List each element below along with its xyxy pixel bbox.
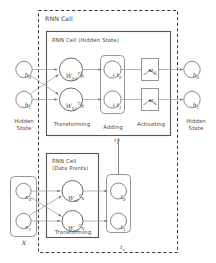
label-hidden-transform-0: Wh0Th	[57, 65, 85, 89]
caption-tx-group: tx	[108, 238, 130, 260]
caption-hidden-state-left-line2: State	[5, 125, 43, 131]
label-data-transform-0: Wx0Tx	[59, 187, 86, 211]
caption-x-group: X	[13, 240, 35, 246]
data-points-box-title-line2: (Data Points)	[52, 165, 88, 171]
label-hidden-input-0: h0	[14, 66, 34, 88]
edge-h1-to-w0	[31, 75, 59, 94]
edge-h0-to-w1	[31, 75, 59, 94]
hidden-state-box-title: RNN Cell (Hidden State)	[52, 37, 119, 43]
label-data-input-0: x0	[14, 188, 34, 210]
label-data-input-1: x1	[14, 218, 34, 240]
caption-adding-line1: Adding	[99, 124, 127, 130]
label-adding-1: +t1	[102, 96, 123, 118]
caption-activating: Activating	[130, 121, 172, 127]
label-activating-0: z0	[141, 61, 159, 83]
label-hidden-output-0: h0	[182, 66, 202, 88]
outer-box-title: RNN Cell	[45, 16, 73, 22]
caption-hidden-state-right-line1: Hidden	[177, 118, 215, 124]
label-activating-1: z1	[141, 91, 159, 113]
caption-hidden-state-right-line2: State	[177, 125, 215, 131]
edge-x1-to-wx0	[29, 196, 61, 215]
diagram-canvas: RNN Cell RNN Cell (Hidden State) RNN Cel…	[0, 0, 216, 263]
label-hidden-output-1: h1	[182, 96, 202, 118]
caption-adding-line2: tx	[99, 131, 127, 153]
label-adding-0: +t0	[102, 66, 123, 88]
caption-hidden-state-left-line1: Hidden	[5, 118, 43, 124]
label-hidden-transform-1: Wh1Th	[57, 95, 85, 119]
caption-transforming-bottom: Transforming	[49, 229, 97, 235]
edge-x0-to-wx1	[29, 197, 61, 217]
label-data-output-0: t0	[109, 188, 129, 210]
caption-transforming-top: Transforming	[48, 121, 96, 127]
data-points-box-title-line1: RNN Cell	[52, 158, 76, 164]
label-hidden-input-1: h1	[14, 96, 34, 118]
